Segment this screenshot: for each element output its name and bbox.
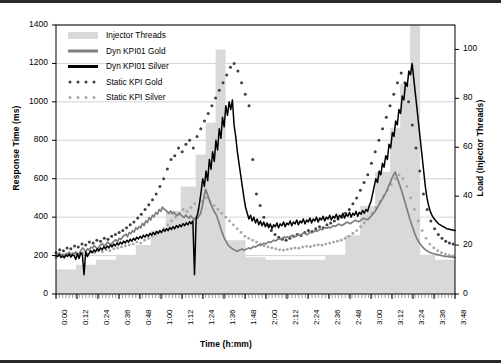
x-axis-tick-label: 1:00 — [165, 309, 174, 325]
y-axis-right-tick-label: 0 — [463, 288, 468, 298]
y-axis-left-tick-label: 200 — [0, 250, 48, 260]
x-axis-tick-label: 1:48 — [249, 309, 258, 325]
x-axis-tick-label: 2:36 — [333, 309, 342, 325]
legend-item-label: Injector Threads — [106, 30, 166, 40]
x-axis-tick-label: 2:24 — [312, 309, 321, 325]
x-axis-tick-label: 0:12 — [81, 309, 90, 325]
x-axis-tick-label: 3:00 — [375, 309, 384, 325]
x-axis-tick-label: 2:48 — [354, 309, 363, 325]
y-axis-right-tick-label: 40 — [463, 190, 472, 200]
x-axis-tick-label: 3:36 — [438, 309, 447, 325]
y-axis-right-tick-label: 80 — [463, 92, 472, 102]
x-axis-title: Time (h:mm) — [200, 339, 252, 349]
y-axis-left-tick-label: 1200 — [0, 57, 48, 67]
y-axis-left-tick-label: 0 — [0, 288, 48, 298]
x-axis-tick-label: 3:48 — [459, 309, 468, 325]
legend-item-label: Static KPI Silver — [106, 92, 165, 102]
x-axis-tick-label: 1:36 — [228, 309, 237, 325]
x-axis-tick-label: 0:24 — [102, 309, 111, 325]
y-axis-left-tick-label: 400 — [0, 211, 48, 221]
x-axis-tick-label: 0:00 — [60, 309, 69, 325]
x-axis-tick-label: 3:12 — [396, 309, 405, 325]
x-axis-tick-label: 0:48 — [144, 309, 153, 325]
x-axis-tick-label: 0:36 — [123, 309, 132, 325]
x-axis-tick-label: 1:24 — [207, 309, 216, 325]
y-axis-left-tick-label: 1000 — [0, 96, 48, 106]
y-axis-right-tick-label: 60 — [463, 141, 472, 151]
y-axis-right-tick-label: 100 — [463, 43, 477, 53]
legend-item-label: Dyn KPI01 Gold — [106, 46, 166, 56]
chart-frame: Response Time (ms) Load (Injector Thread… — [0, 0, 501, 363]
legend-item-label: Static KPI Gold — [106, 77, 162, 87]
x-axis-tick-label: 3:24 — [417, 309, 426, 325]
x-axis-tick-label: 2:00 — [270, 309, 279, 325]
y-axis-left-tick-label: 1400 — [0, 19, 48, 29]
y-axis-left-tick-label: 600 — [0, 173, 48, 183]
x-axis-tick-label: 2:12 — [291, 309, 300, 325]
y-axis-right-title: Load (Injector Threads) — [475, 88, 485, 208]
x-axis-tick-label: 1:12 — [186, 309, 195, 325]
y-axis-left-tick-label: 800 — [0, 134, 48, 144]
y-axis-left-title: Response Time (ms) — [11, 88, 21, 208]
y-axis-right-tick-label: 20 — [463, 239, 472, 249]
legend-item-label: Dyn KPI01 Silver — [106, 61, 169, 71]
